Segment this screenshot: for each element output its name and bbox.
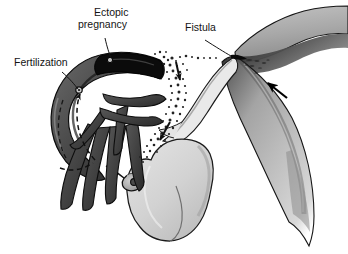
- fimbria: [114, 105, 128, 155]
- figure-svg: Fertilization Ectopic pregnancy Fistula: [0, 0, 348, 254]
- broad-ligament: [222, 6, 348, 246]
- fertilization-site-dot: [78, 89, 80, 91]
- illustration-canvas: Fertilization Ectopic pregnancy Fistula: [0, 0, 348, 254]
- fimbria-large: [103, 94, 166, 107]
- label-ectopic-pregnancy-line1: Ectopic: [94, 6, 128, 18]
- leader-line-fistula: [205, 40, 231, 56]
- label-fistula: Fistula: [185, 21, 216, 33]
- fimbria-lower-band: [100, 108, 163, 126]
- label-ectopic-pregnancy-line2: pregnancy: [78, 18, 128, 30]
- implantation-marker: [107, 57, 112, 62]
- label-fertilization: Fertilization: [14, 56, 68, 68]
